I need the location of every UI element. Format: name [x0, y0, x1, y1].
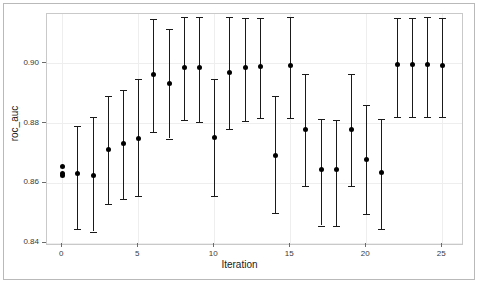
data-point [288, 63, 293, 68]
data-point [60, 164, 65, 169]
y-tick-mark [42, 62, 46, 63]
data-point [258, 64, 263, 69]
data-point [349, 127, 354, 132]
data-point [75, 171, 80, 176]
error-cap-upper [211, 79, 218, 80]
error-bar [412, 18, 413, 118]
data-point [182, 65, 187, 70]
error-cap-lower [242, 121, 249, 122]
error-cap-lower [150, 132, 157, 133]
error-cap-upper [272, 96, 279, 97]
error-cap-upper [302, 74, 309, 75]
data-point [303, 127, 308, 132]
data-point [167, 81, 172, 86]
error-cap-upper [135, 79, 142, 80]
error-cap-lower [333, 226, 340, 227]
error-cap-upper [120, 90, 127, 91]
error-cap-lower [424, 117, 431, 118]
error-cap-upper [287, 17, 294, 18]
y-tick-label: 0.84 [0, 237, 39, 246]
gridline-vertical [62, 14, 63, 244]
gridline-horizontal [47, 243, 462, 244]
data-point [197, 65, 202, 70]
data-point [395, 62, 400, 67]
x-tick-label: 25 [431, 249, 451, 258]
x-tick-mark [365, 243, 366, 247]
error-cap-lower [318, 226, 325, 227]
data-point [425, 62, 430, 67]
error-cap-upper [378, 119, 385, 120]
error-bar [321, 119, 322, 225]
error-cap-upper [226, 17, 233, 18]
error-cap-upper [242, 18, 249, 19]
data-point [151, 72, 156, 77]
plot-area [47, 14, 462, 244]
error-cap-upper [166, 29, 173, 30]
y-tick-mark [42, 122, 46, 123]
error-cap-upper [424, 17, 431, 18]
error-bar [427, 17, 428, 117]
data-point [136, 136, 141, 141]
x-tick-label: 10 [203, 249, 223, 258]
error-cap-lower [226, 129, 233, 130]
error-cap-lower [135, 196, 142, 197]
data-point [243, 65, 248, 70]
x-tick-label: 5 [127, 249, 147, 258]
error-cap-lower [211, 196, 218, 197]
data-point [440, 63, 445, 68]
error-cap-lower [120, 199, 127, 200]
data-point [91, 173, 96, 178]
x-tick-mark [61, 243, 62, 247]
error-cap-upper [90, 117, 97, 118]
error-cap-upper [333, 120, 340, 121]
y-tick-label: 0.86 [0, 177, 39, 186]
plot-panel [46, 13, 463, 245]
data-point [212, 135, 217, 140]
error-cap-lower [348, 186, 355, 187]
error-cap-upper [394, 18, 401, 19]
data-point [379, 170, 384, 175]
chart-figure: 0.840.860.880.90 0510152025 Iteration ro… [0, 0, 479, 284]
error-cap-lower [302, 186, 309, 187]
error-cap-upper [409, 18, 416, 19]
error-cap-lower [363, 214, 370, 215]
x-tick-mark [137, 243, 138, 247]
x-tick-label: 15 [279, 249, 299, 258]
error-cap-lower [378, 229, 385, 230]
error-cap-upper [105, 96, 112, 97]
error-cap-upper [150, 19, 157, 20]
error-cap-lower [105, 204, 112, 205]
error-cap-upper [257, 18, 264, 19]
x-axis-title: Iteration [0, 259, 479, 270]
data-point [273, 153, 278, 158]
y-tick-label: 0.90 [0, 58, 39, 67]
data-point [410, 62, 415, 67]
x-tick-mark [289, 243, 290, 247]
error-cap-lower [409, 117, 416, 118]
error-cap-upper [196, 17, 203, 18]
error-cap-lower [439, 117, 446, 118]
y-axis-title: roc_auc [9, 84, 20, 164]
error-bar [397, 18, 398, 117]
y-tick-mark [42, 242, 46, 243]
error-bar [336, 120, 337, 226]
error-cap-lower [287, 118, 294, 119]
error-cap-upper [439, 18, 446, 19]
x-tick-mark [441, 243, 442, 247]
error-cap-upper [348, 74, 355, 75]
error-cap-upper [74, 126, 81, 127]
data-point [364, 157, 369, 162]
error-bar [77, 126, 78, 229]
error-cap-lower [74, 229, 81, 230]
x-tick-label: 0 [51, 249, 71, 258]
error-cap-lower [196, 122, 203, 123]
error-cap-lower [272, 213, 279, 214]
error-cap-upper [363, 105, 370, 106]
x-tick-label: 20 [355, 249, 375, 258]
error-cap-lower [166, 139, 173, 140]
error-cap-lower [257, 118, 264, 119]
gridline-horizontal [47, 123, 462, 124]
data-point [334, 167, 339, 172]
data-point [106, 147, 111, 152]
error-cap-upper [181, 17, 188, 18]
